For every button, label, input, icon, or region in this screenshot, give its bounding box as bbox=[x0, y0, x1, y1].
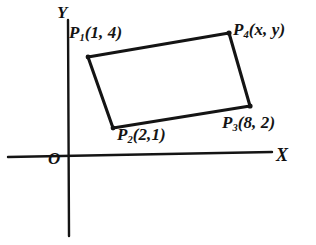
y-axis-line bbox=[68, 20, 69, 236]
geometry-figure: Y X O P1(1, 4) P4(x, y) P3(8, 2) P2(2,1) bbox=[0, 0, 316, 245]
point-label-p3: P3(8, 2) bbox=[222, 114, 275, 133]
point-label-p3-name: P bbox=[222, 113, 232, 132]
point-label-p1-coordinates: (1, 4) bbox=[85, 23, 122, 42]
y-axis-label: Y bbox=[57, 4, 67, 21]
point-label-p4-name: P bbox=[233, 20, 243, 39]
point-label-p2: P2(2,1) bbox=[117, 126, 166, 145]
x-axis-label: X bbox=[276, 146, 288, 164]
point-label-p4-coordinates: (x, y) bbox=[249, 20, 285, 39]
point-label-p4: P4(x, y) bbox=[233, 21, 285, 40]
vertex-p1-marker bbox=[86, 55, 91, 60]
vertex-p3-marker bbox=[247, 103, 252, 108]
vertex-p4-marker bbox=[226, 30, 231, 35]
vertex-p2-marker bbox=[111, 126, 116, 131]
point-label-p2-coordinates: (2,1) bbox=[133, 125, 166, 144]
point-label-p3-coordinates: (8, 2) bbox=[238, 113, 275, 132]
point-label-p1: P1(1, 4) bbox=[69, 24, 122, 43]
point-label-p1-name: P bbox=[69, 23, 79, 42]
origin-label: O bbox=[48, 150, 60, 167]
point-label-p2-name: P bbox=[117, 125, 127, 144]
